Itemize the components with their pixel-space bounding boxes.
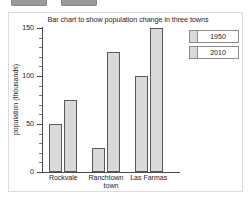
legend-item-2010[interactable]: 2010 — [189, 46, 239, 59]
toolbar-chip-right[interactable] — [61, 0, 97, 6]
bar — [150, 28, 163, 172]
bar — [64, 100, 77, 172]
bar — [107, 52, 120, 172]
y-axis-title: population (thousands) — [12, 45, 19, 155]
screenshot-root: Bar chart to show population change in t… — [0, 0, 251, 200]
x-axis-title: town — [42, 182, 180, 189]
x-axis-line — [42, 172, 180, 173]
legend-swatch-icon — [190, 31, 198, 42]
y-axis-tick-label: 150 — [12, 24, 34, 31]
y-axis-tick-label: 0 — [12, 168, 34, 175]
toolbar-chip-left[interactable] — [11, 0, 47, 6]
legend-label: 2010 — [198, 47, 238, 58]
bar — [92, 148, 105, 172]
bar — [49, 124, 62, 172]
legend-swatch-icon — [190, 47, 198, 58]
x-axis-category-label: Las Farmas — [121, 174, 176, 181]
chart-title: Bar chart to show population change in t… — [38, 15, 218, 24]
bar — [135, 76, 148, 172]
y-axis-major-tick — [37, 172, 42, 173]
legend-label: 1950 — [198, 31, 238, 42]
legend-item-1950[interactable]: 1950 — [189, 30, 239, 43]
plot-area — [42, 28, 170, 172]
